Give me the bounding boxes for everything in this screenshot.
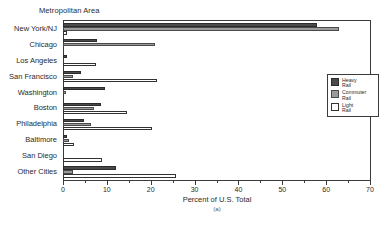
bar-light-8 bbox=[63, 158, 102, 161]
y-axis-label-6: Philadelphia bbox=[0, 116, 60, 132]
bar-commuter-3 bbox=[63, 75, 73, 78]
bar-heavy-2 bbox=[63, 55, 67, 58]
bar-commuter-0 bbox=[63, 27, 339, 30]
panel-caption: (a) bbox=[63, 206, 371, 212]
bar-commuter-1 bbox=[63, 43, 155, 46]
bar-light-3 bbox=[63, 79, 157, 82]
x-tick-20 bbox=[151, 181, 152, 185]
bar-commuter-5 bbox=[63, 107, 94, 110]
bar-rows bbox=[63, 21, 370, 180]
bar-heavy-3 bbox=[63, 71, 81, 74]
legend-swatch-light bbox=[331, 103, 339, 111]
bar-heavy-6 bbox=[63, 119, 84, 122]
x-tick-60 bbox=[326, 181, 327, 185]
y-axis-label-3: San Francisco bbox=[0, 69, 60, 85]
chart-figure: Metropolitan Area New York/NJChicagoLos … bbox=[0, 0, 391, 225]
legend-item-1: Commuter Rail bbox=[331, 90, 376, 101]
y-axis-label-1: Chicago bbox=[0, 37, 60, 53]
y-axis-label-0: New York/NJ bbox=[0, 21, 60, 37]
chart-legend: Heavy RailCommuter RailLight Rail bbox=[327, 74, 379, 117]
bar-light-9 bbox=[63, 174, 176, 177]
x-tick-minor-35 bbox=[217, 181, 218, 183]
legend-swatch-heavy bbox=[331, 78, 339, 86]
x-tick-label-30: 30 bbox=[191, 186, 199, 193]
x-tick-10 bbox=[107, 181, 108, 185]
y-axis-label-4: Washington bbox=[0, 85, 60, 101]
x-axis: 010203040506070 bbox=[63, 181, 371, 182]
x-tick-70 bbox=[370, 181, 371, 185]
bar-heavy-4 bbox=[63, 87, 105, 90]
bar-heavy-5 bbox=[63, 103, 101, 106]
bar-commuter-7 bbox=[63, 139, 69, 142]
y-axis-label-2: Los Angeles bbox=[0, 53, 60, 69]
y-axis-label-5: Boston bbox=[0, 100, 60, 116]
bar-group-3 bbox=[63, 69, 370, 85]
bar-light-7 bbox=[63, 143, 74, 146]
x-tick-minor-65 bbox=[348, 181, 349, 183]
bar-light-5 bbox=[63, 111, 127, 114]
x-tick-minor-45 bbox=[260, 181, 261, 183]
legend-item-2: Light Rail bbox=[331, 103, 376, 114]
bar-group-5 bbox=[63, 100, 370, 116]
bar-group-2 bbox=[63, 53, 370, 69]
bar-heavy-1 bbox=[63, 39, 97, 42]
x-tick-minor-55 bbox=[304, 181, 305, 183]
bar-group-9 bbox=[63, 164, 370, 180]
x-tick-label-40: 40 bbox=[235, 186, 243, 193]
legend-label-0: Heavy Rail bbox=[342, 78, 357, 89]
bar-group-1 bbox=[63, 37, 370, 53]
bar-heavy-7 bbox=[63, 135, 67, 138]
bar-light-2 bbox=[63, 63, 96, 66]
y-axis-label-7: Baltimore bbox=[0, 132, 60, 148]
x-tick-minor-25 bbox=[173, 181, 174, 183]
y-axis-label-8: San Diego bbox=[0, 148, 60, 164]
x-tick-label-50: 50 bbox=[278, 186, 286, 193]
x-tick-label-70: 70 bbox=[366, 186, 374, 193]
legend-label-1: Commuter Rail bbox=[342, 90, 366, 101]
x-tick-label-20: 20 bbox=[147, 186, 155, 193]
x-tick-30 bbox=[195, 181, 196, 185]
chart-title: Metropolitan Area bbox=[39, 6, 99, 15]
x-tick-label-60: 60 bbox=[322, 186, 330, 193]
bar-light-6 bbox=[63, 127, 152, 130]
bar-group-8 bbox=[63, 148, 370, 164]
x-tick-50 bbox=[282, 181, 283, 185]
x-tick-0 bbox=[63, 181, 64, 185]
x-tick-minor-5 bbox=[85, 181, 86, 183]
legend-swatch-commuter bbox=[331, 90, 339, 98]
y-axis-category-labels: New York/NJChicagoLos AngelesSan Francis… bbox=[0, 21, 60, 180]
legend-item-0: Heavy Rail bbox=[331, 78, 376, 89]
bar-commuter-6 bbox=[63, 123, 91, 126]
legend-label-2: Light Rail bbox=[342, 103, 353, 114]
bar-group-0 bbox=[63, 21, 370, 37]
x-tick-minor-15 bbox=[129, 181, 130, 183]
x-axis-title: Percent of U.S. Total bbox=[63, 195, 371, 204]
x-tick-label-0: 0 bbox=[61, 186, 65, 193]
bar-heavy-0 bbox=[63, 23, 317, 26]
bar-commuter-9 bbox=[63, 170, 73, 173]
bar-commuter-4 bbox=[63, 91, 66, 94]
bar-group-7 bbox=[63, 132, 370, 148]
x-tick-40 bbox=[238, 181, 239, 185]
x-tick-label-10: 10 bbox=[103, 186, 111, 193]
bar-group-4 bbox=[63, 85, 370, 101]
bar-heavy-9 bbox=[63, 166, 116, 169]
bar-light-0 bbox=[63, 31, 67, 34]
bar-group-6 bbox=[63, 116, 370, 132]
y-axis-label-9: Other Cities bbox=[0, 164, 60, 180]
